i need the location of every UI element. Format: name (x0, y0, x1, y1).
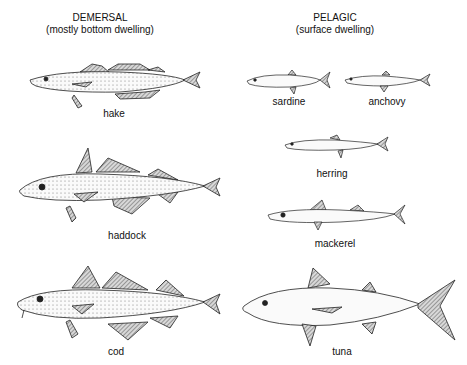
label-anchovy: anchovy (347, 96, 427, 107)
tuna-illustration (243, 268, 455, 346)
fish-illustrations (0, 0, 467, 365)
hake-illustration (30, 64, 200, 108)
label-hake: hake (74, 108, 154, 119)
cod-illustration (18, 266, 221, 340)
label-cod: cod (76, 346, 156, 357)
label-tuna: tuna (302, 346, 382, 357)
label-sardine: sardine (249, 96, 329, 107)
label-herring: herring (292, 168, 372, 179)
label-mackerel: mackerel (295, 238, 375, 249)
anchovy-illustration (345, 71, 430, 92)
herring-illustration (285, 135, 388, 158)
mackerel-illustration (268, 200, 405, 230)
sardine-illustration (247, 70, 330, 94)
label-haddock: haddock (87, 230, 167, 241)
haddock-illustration (20, 148, 221, 222)
